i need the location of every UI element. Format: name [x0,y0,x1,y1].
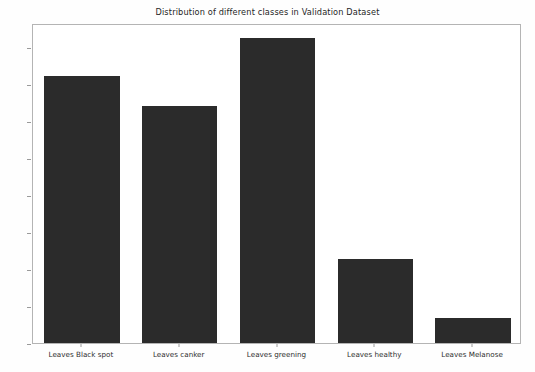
x-tick-mark [178,344,179,347]
bar [142,106,217,343]
plot-area [32,24,521,344]
chart-figure: Distribution of different classes in Val… [0,0,535,372]
x-tick-mark [472,344,473,347]
y-tick-mark [27,307,31,308]
bar [338,259,413,343]
bars-layer [33,25,520,343]
y-tick-mark [27,233,31,234]
x-tick-label: Leaves Melanose [441,350,503,359]
x-tick-mark [80,344,81,347]
x-tick-mark [374,344,375,347]
bar [44,76,119,343]
bar [435,318,510,343]
y-tick-mark [27,48,31,49]
x-tick-label: Leaves greening [247,350,306,359]
y-tick-mark [27,196,31,197]
x-tick-label: Leaves canker [153,350,205,359]
x-tick-label: Leaves healthy [347,350,401,359]
y-tick-mark [27,122,31,123]
y-tick-mark [27,85,31,86]
x-tick-label: Leaves Black spot [49,350,114,359]
y-tick-mark [27,270,31,271]
x-tick-mark [276,344,277,347]
chart-title: Distribution of different classes in Val… [0,7,535,17]
y-tick-mark [27,344,31,345]
bar [240,38,315,343]
y-tick-mark [27,159,31,160]
